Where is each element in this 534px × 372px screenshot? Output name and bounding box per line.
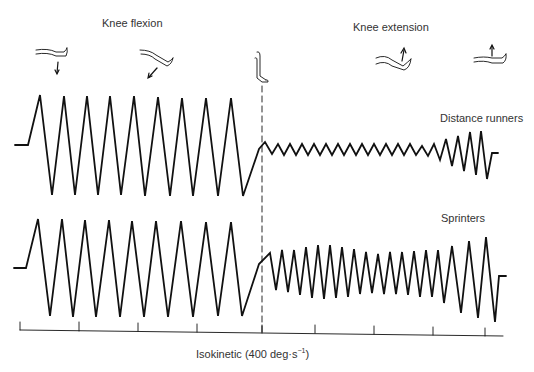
leg-bent-up-arrow-icon — [376, 48, 411, 70]
distance-runners-trace — [15, 95, 498, 196]
leg-extended-down-arrow-icon — [36, 48, 67, 74]
isokinetic-diagram — [0, 0, 534, 372]
leg-bent-down-arrow-icon — [140, 50, 173, 78]
sprinters-trace — [14, 219, 506, 322]
leg-extended-up-arrow-icon — [474, 45, 506, 63]
time-axis — [20, 322, 503, 336]
leg-vertical-icon — [255, 52, 268, 82]
